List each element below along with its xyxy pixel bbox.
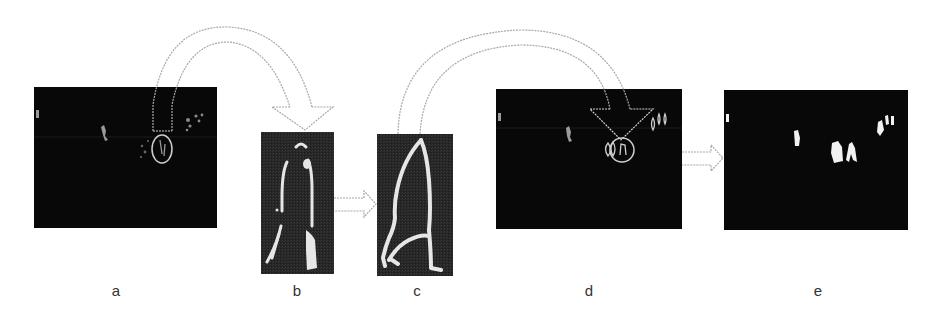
panel-label-e: e (808, 282, 828, 299)
arrow-b-to-c (334, 191, 376, 217)
panel-label-d: d (579, 282, 599, 299)
person-blob (36, 110, 39, 118)
panel-e (724, 90, 908, 230)
panel-label-b: b (287, 282, 307, 299)
panel-a (34, 87, 217, 228)
arrow-d-to-e (682, 145, 723, 171)
panel-label-a: a (106, 282, 126, 299)
panel-label-c: c (407, 282, 427, 299)
panel-c (377, 134, 453, 276)
panel-d (496, 89, 682, 229)
pipeline-diagram (0, 0, 934, 317)
panel-b (261, 132, 334, 274)
